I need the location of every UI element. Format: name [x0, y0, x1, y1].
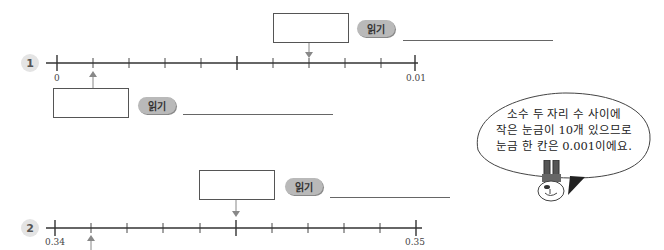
hint-line-3-post: 이에요. — [595, 139, 632, 153]
problem-1-start-label: 0 — [54, 73, 60, 83]
hint-line-3: 눈금 한 칸은 0.001이에요. — [483, 138, 645, 154]
problem-2-answer-line-top[interactable] — [330, 197, 450, 198]
hint-line-2-post: 개 있으므로 — [573, 123, 632, 137]
hint-line-3-num: 0.001 — [562, 139, 595, 153]
hint-line-2: 작은 눈금이 10개 있으므로 — [488, 122, 640, 138]
problem-1-answer-box-top[interactable] — [273, 13, 349, 43]
problem-1-answer-box-bottom[interactable] — [53, 88, 129, 118]
problem-2-end-label: 0.35 — [405, 237, 425, 247]
problem-1-answer-line-top[interactable] — [403, 40, 553, 41]
problem-2-answer-box-top[interactable] — [199, 170, 275, 200]
problem-2-read-label-top: 읽기 — [285, 178, 323, 195]
problem-1-read-label-top: 읽기 — [357, 20, 395, 37]
problem-1-answer-line-bottom[interactable] — [183, 114, 333, 115]
problem-2-number: 2 — [21, 219, 39, 237]
hint-line-1: 소수 두 자리 수 사이에 — [504, 106, 624, 122]
problem-1-read-label-bottom: 읽기 — [138, 97, 176, 114]
problem-1-end-label: 0.01 — [406, 73, 426, 83]
rabbit-mascot-icon — [535, 160, 585, 210]
hint-line-2-num: 10 — [559, 123, 574, 137]
hint-line-2-pre: 작은 눈금이 — [496, 123, 558, 137]
hint-line-3-pre: 눈금 한 칸은 — [496, 139, 562, 153]
problem-2-start-label: 0.34 — [45, 237, 65, 247]
